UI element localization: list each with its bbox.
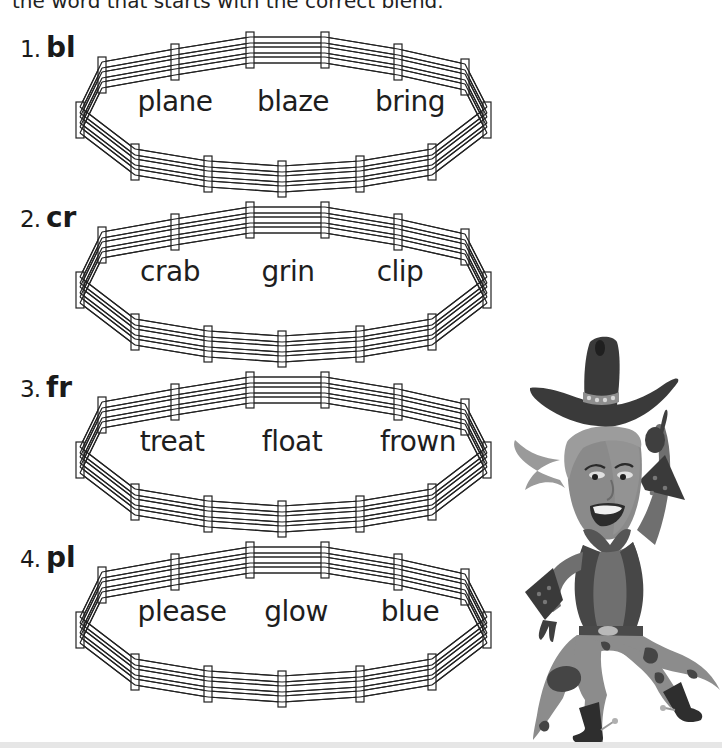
word-option[interactable]: bring <box>375 85 445 118</box>
bottom-strip <box>0 742 722 748</box>
fence-icon <box>0 195 510 355</box>
word-option[interactable]: blue <box>381 595 440 628</box>
word-option[interactable]: blaze <box>257 85 329 118</box>
instruction-text: the word that starts with the correct bl… <box>12 0 444 13</box>
word-option[interactable]: treat <box>140 425 205 458</box>
word-option[interactable]: plane <box>137 85 212 118</box>
word-option[interactable]: grin <box>262 255 315 288</box>
word-option[interactable]: clip <box>377 255 424 288</box>
problem-3: 3.fr treat float frown <box>0 365 510 525</box>
cowboy-illustration <box>505 330 722 745</box>
word-option[interactable]: frown <box>380 425 456 458</box>
problem-1: 1.bl plane blaze bring <box>0 25 510 185</box>
word-option[interactable]: glow <box>264 595 328 628</box>
problem-2: 2.cr crab grin clip <box>0 195 510 355</box>
word-option[interactable]: crab <box>140 255 200 288</box>
problem-4: 4.pl please glow blue <box>0 535 510 695</box>
word-option[interactable]: please <box>138 595 227 628</box>
word-option[interactable]: float <box>262 425 322 458</box>
